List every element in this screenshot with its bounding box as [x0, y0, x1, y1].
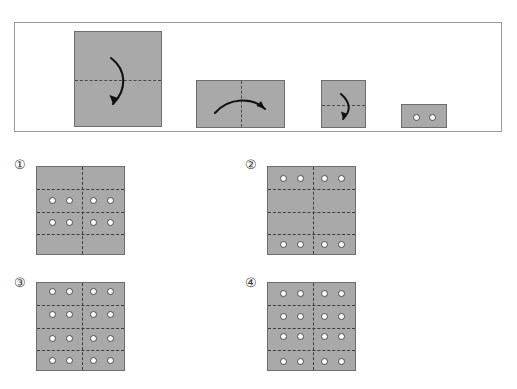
punched-hole	[297, 241, 304, 248]
punched-hole	[107, 335, 114, 342]
punched-hole	[66, 197, 73, 204]
cut-off-header	[0, 0, 517, 12]
answer-option-1-label: ①	[14, 158, 26, 171]
punched-hole	[280, 241, 287, 248]
answer-option-1-paper[interactable]	[36, 166, 125, 255]
punched-hole	[280, 313, 287, 320]
answer-option-3[interactable]: ③	[14, 270, 144, 380]
punched-hole	[321, 290, 328, 297]
fold-grid-line-vertical	[313, 283, 314, 370]
punched-hole	[90, 288, 97, 295]
punched-hole	[107, 311, 114, 318]
answer-option-2[interactable]: ②	[245, 152, 375, 262]
punched-hole	[338, 313, 345, 320]
fold-grid-line-horizontal	[268, 212, 355, 213]
fold-grid-line-horizontal	[268, 350, 355, 351]
stimulus-box	[14, 22, 502, 132]
punched-hole	[90, 357, 97, 364]
punched-hole	[280, 290, 287, 297]
punched-hole	[297, 358, 304, 365]
punched-hole	[49, 219, 56, 226]
fold-grid-line-horizontal	[37, 189, 124, 190]
punched-hole	[66, 357, 73, 364]
punched-hole	[297, 175, 304, 182]
page-root: ① ② ③ ④	[0, 0, 517, 389]
fold-step-1-paper	[74, 31, 162, 127]
answer-option-4-label: ④	[245, 276, 257, 289]
punched-hole	[429, 114, 436, 121]
punched-hole	[338, 358, 345, 365]
fold-step-2-arrow-icon	[197, 81, 286, 129]
fold-step-4-paper	[401, 104, 447, 128]
punched-hole	[66, 219, 73, 226]
punched-hole	[49, 311, 56, 318]
fold-grid-line-vertical	[313, 167, 314, 254]
fold-grid-line-horizontal	[37, 328, 124, 329]
fold-step-3-arrow-icon	[322, 81, 367, 129]
fold-step-3-paper	[321, 80, 366, 128]
punched-hole	[321, 333, 328, 340]
punched-hole	[297, 290, 304, 297]
punched-hole	[107, 219, 114, 226]
punched-hole	[107, 288, 114, 295]
punched-hole	[338, 175, 345, 182]
fold-grid-line-horizontal	[268, 189, 355, 190]
fold-grid-line-vertical	[82, 283, 83, 370]
punched-hole	[280, 333, 287, 340]
punched-hole	[297, 333, 304, 340]
punched-hole	[338, 241, 345, 248]
answer-option-2-label: ②	[245, 158, 257, 171]
answer-option-2-paper[interactable]	[267, 166, 356, 255]
answer-option-3-paper[interactable]	[36, 282, 125, 371]
punched-hole	[90, 197, 97, 204]
punched-hole	[90, 219, 97, 226]
punched-hole	[338, 333, 345, 340]
fold-grid-line-horizontal	[37, 350, 124, 351]
punched-hole	[90, 335, 97, 342]
punched-hole	[107, 357, 114, 364]
answer-option-4[interactable]: ④	[245, 270, 375, 380]
punched-hole	[66, 311, 73, 318]
punched-hole	[49, 357, 56, 364]
punched-hole	[321, 358, 328, 365]
punched-hole	[338, 290, 345, 297]
fold-grid-line-horizontal	[37, 305, 124, 306]
punched-hole	[280, 175, 287, 182]
fold-grid-line-horizontal	[268, 234, 355, 235]
answer-option-4-paper[interactable]	[267, 282, 356, 371]
fold-step-2-paper	[196, 80, 285, 128]
punched-hole	[49, 197, 56, 204]
punched-hole	[297, 313, 304, 320]
fold-grid-line-horizontal	[268, 305, 355, 306]
answer-option-3-label: ③	[14, 276, 26, 289]
fold-grid-line-vertical	[82, 167, 83, 254]
punched-hole	[49, 335, 56, 342]
punched-hole	[321, 313, 328, 320]
punched-hole	[413, 114, 420, 121]
fold-grid-line-horizontal	[37, 234, 124, 235]
fold-grid-line-horizontal	[37, 212, 124, 213]
punched-hole	[280, 358, 287, 365]
punched-hole	[321, 241, 328, 248]
fold-grid-line-horizontal	[268, 328, 355, 329]
punched-hole	[107, 197, 114, 204]
punched-hole	[321, 175, 328, 182]
answer-option-1[interactable]: ①	[14, 152, 144, 262]
fold-step-1-arrow-icon	[75, 32, 163, 128]
punched-hole	[66, 288, 73, 295]
punched-hole	[49, 288, 56, 295]
punched-hole	[90, 311, 97, 318]
punched-hole	[66, 335, 73, 342]
